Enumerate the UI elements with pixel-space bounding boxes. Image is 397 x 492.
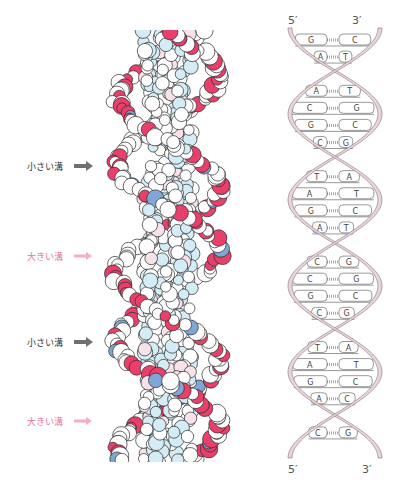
- base-pair: CG: [307, 256, 359, 268]
- svg-text:T: T: [353, 190, 359, 199]
- svg-text:A: A: [346, 344, 352, 353]
- svg-text:T: T: [343, 224, 349, 233]
- svg-text:G: G: [346, 258, 352, 267]
- svg-text:A: A: [347, 173, 353, 182]
- base-pair: AT: [292, 188, 374, 200]
- svg-text:C: C: [315, 429, 321, 438]
- svg-text:C: C: [352, 36, 358, 45]
- dna-ladder-diagram: GCATATCGGCCGTAATGCATCGCGGCCGTAATGCACCG: [270, 0, 397, 492]
- svg-text:A: A: [307, 361, 313, 370]
- svg-text:A: A: [307, 190, 313, 199]
- groove-label-major-1: 大きい溝: [27, 250, 63, 263]
- svg-text:G: G: [308, 121, 314, 130]
- base-pair: GC: [294, 205, 371, 217]
- svg-text:G: G: [307, 378, 313, 387]
- svg-text:G: G: [353, 275, 359, 284]
- strand-end-5prime-bottom: 5′: [288, 463, 298, 476]
- svg-text:C: C: [353, 292, 359, 301]
- svg-text:G: G: [353, 104, 359, 113]
- svg-text:G: G: [308, 207, 314, 216]
- svg-text:T: T: [313, 173, 319, 182]
- dna-space-filling-model: [88, 30, 248, 462]
- svg-text:T: T: [346, 87, 352, 96]
- base-pair: TA: [306, 171, 359, 183]
- base-pair: AT: [306, 85, 361, 97]
- svg-text:C: C: [307, 275, 313, 284]
- base-pair: CG: [309, 427, 358, 439]
- base-pair: GC: [295, 34, 370, 46]
- svg-text:C: C: [307, 104, 313, 113]
- base-pair: GC: [294, 376, 372, 388]
- base-pair: CG: [292, 102, 374, 114]
- svg-text:C: C: [344, 395, 350, 404]
- svg-text:C: C: [352, 207, 358, 216]
- strand-end-5prime-top: 5′: [288, 14, 298, 27]
- base-pair: GC: [294, 290, 372, 302]
- base-pair: AT: [293, 359, 374, 371]
- svg-text:G: G: [344, 309, 350, 318]
- strand-end-3prime-top: 3′: [352, 14, 362, 27]
- svg-text:T: T: [314, 344, 320, 353]
- svg-text:G: G: [343, 139, 349, 148]
- groove-label-major-2: 大きい溝: [27, 415, 63, 428]
- svg-text:T: T: [342, 53, 348, 62]
- base-pair: GC: [295, 119, 371, 131]
- base-pair: TA: [308, 342, 358, 354]
- strand-end-3prime-bottom: 3′: [362, 463, 372, 476]
- svg-text:C: C: [352, 121, 358, 130]
- svg-text:G: G: [345, 429, 351, 438]
- svg-text:C: C: [353, 378, 359, 387]
- svg-text:C: C: [314, 258, 320, 267]
- svg-text:G: G: [308, 36, 314, 45]
- svg-text:T: T: [353, 361, 359, 370]
- svg-text:A: A: [314, 87, 320, 96]
- svg-text:G: G: [307, 292, 313, 301]
- groove-label-minor-2: 小さい溝: [27, 336, 63, 349]
- base-pair: CG: [292, 273, 373, 285]
- groove-label-minor-1: 小さい溝: [27, 160, 63, 173]
